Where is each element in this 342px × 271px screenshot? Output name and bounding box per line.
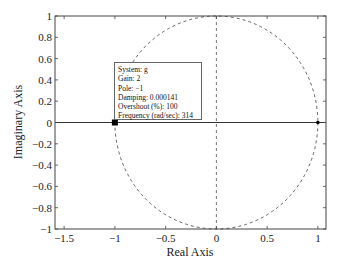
y-tick-label: −1 bbox=[40, 223, 52, 235]
zero-marker bbox=[316, 121, 320, 125]
datatip-frequency: Frequency (rad/sec): 314 bbox=[118, 111, 201, 120]
x-tick-label: 0.5 bbox=[260, 232, 274, 244]
y-tick-label: 1 bbox=[47, 10, 53, 22]
datatip-gain: Gain: 2 bbox=[118, 74, 201, 83]
pole-marker bbox=[112, 120, 118, 126]
datatip[interactable]: System: g Gain: 2 Pole: −1 Damping: 0.00… bbox=[114, 62, 202, 120]
x-tick-label: −0.5 bbox=[156, 232, 176, 244]
x-tick-label: 0 bbox=[214, 232, 220, 244]
y-tick-label: 0.4 bbox=[38, 74, 52, 86]
y-tick-label: 0 bbox=[47, 117, 53, 129]
y-tick-label: −0.6 bbox=[32, 180, 52, 192]
y-tick-label: −0.4 bbox=[32, 159, 52, 171]
x-tick-label: −1 bbox=[109, 232, 121, 244]
x-tick-label: −1.5 bbox=[54, 232, 74, 244]
y-tick-label: −0.2 bbox=[32, 138, 52, 150]
y-tick-label: 0.8 bbox=[38, 31, 52, 43]
x-axis-label: Real Axis bbox=[167, 245, 214, 259]
root-locus-plot: −1.5−1−0.500.51 10.80.60.40.20−0.2−0.4−0… bbox=[0, 0, 342, 271]
datatip-damping: Damping: 0.000141 bbox=[118, 93, 201, 102]
y-tick-label: −0.8 bbox=[32, 202, 52, 214]
x-ticks: −1.5−1−0.500.51 bbox=[54, 16, 320, 244]
y-axis-label: Imaginary Axis bbox=[11, 85, 25, 160]
datatip-pole: Pole: −1 bbox=[118, 84, 201, 93]
y-tick-label: 0.2 bbox=[38, 95, 52, 107]
y-tick-label: 0.6 bbox=[38, 53, 52, 65]
datatip-system: System: g bbox=[118, 65, 201, 74]
datatip-overshoot: Overshoot (%): 100 bbox=[118, 102, 201, 111]
x-tick-label: 1 bbox=[315, 232, 321, 244]
